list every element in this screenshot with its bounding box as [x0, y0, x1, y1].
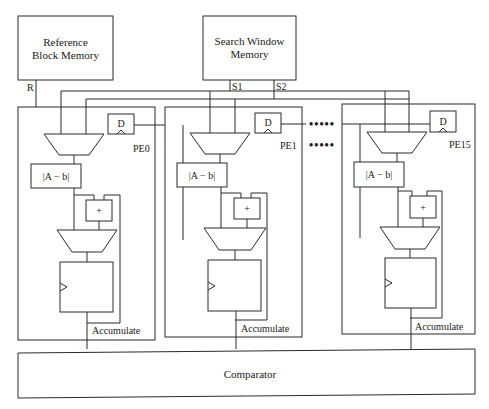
pe0: D PE0 |A − b| + Accumulate — [18, 91, 165, 349]
reference-memory-label-1: Reference — [43, 36, 88, 48]
svg-text:D: D — [117, 118, 124, 129]
architecture-diagram: Reference Block Memory R Search Window M… — [0, 0, 489, 409]
svg-text:+: + — [96, 205, 102, 216]
search-memory-label-1: Search Window — [215, 35, 285, 47]
comparator-label: Comparator — [224, 368, 277, 380]
port-s1-label: S1 — [232, 81, 243, 92]
svg-text:+: + — [244, 203, 250, 214]
pe1-label: PE1 — [280, 140, 297, 151]
search-window-memory: Search Window Memory — [203, 16, 296, 80]
port-s2-label: S2 — [276, 81, 287, 92]
port-r-label: R — [27, 82, 34, 93]
accumulator-register — [208, 260, 261, 311]
pe15-label: PE15 — [449, 139, 471, 150]
svg-text:D: D — [264, 117, 271, 128]
search-memory-label-2: Memory — [231, 48, 269, 60]
svg-text:+: + — [420, 202, 426, 213]
svg-text:|A − b|: |A − b| — [43, 171, 69, 182]
svg-text:|A − b|: |A − b| — [189, 170, 215, 181]
reference-block-memory: Reference Block Memory — [18, 16, 113, 80]
reference-memory-label-2: Block Memory — [32, 49, 99, 61]
accumulate-label: Accumulate — [415, 321, 464, 332]
accumulate-label: Accumulate — [241, 323, 290, 334]
svg-text:|A − b|: |A − b| — [366, 169, 392, 180]
ellipsis-top: ••••• — [309, 117, 335, 131]
accumulate-label: Accumulate — [92, 325, 141, 336]
pe1: D PE1 |A − b| + Accumulate — [165, 91, 306, 349]
comparator: Comparator — [18, 349, 475, 398]
ellipsis-bottom: ••••• — [309, 138, 335, 152]
svg-text:D: D — [439, 116, 446, 127]
pe15: D PE15 |A − b| + Accumulate — [342, 91, 475, 349]
pe0-label: PE0 — [133, 143, 150, 154]
